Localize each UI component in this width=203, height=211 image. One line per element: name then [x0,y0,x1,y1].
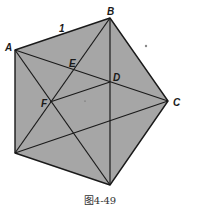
point-label-E: E [69,58,76,69]
side-length-label: 1 [59,23,65,34]
point-label-F: F [41,98,48,109]
stray-dot [84,100,85,101]
point-label-D: D [113,72,120,83]
figure-caption: 图4-49 [84,195,116,206]
point-label-B: B [107,6,114,17]
point-label-C: C [173,97,181,108]
pentagon-fill [15,18,168,185]
point-label-A: A [4,42,12,53]
stray-dot [145,45,147,47]
regular-pentagon-diagram: 1 A B C D E F 图4-49 [0,0,203,211]
